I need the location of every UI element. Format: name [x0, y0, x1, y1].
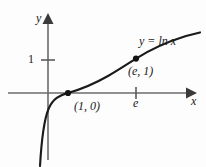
point-one-zero-dot [65, 90, 71, 96]
point-one-zero-label: (1, 0) [74, 100, 100, 112]
x-tick-e-label: e [133, 97, 138, 109]
y-tick-one-label: 1 [28, 53, 34, 65]
ln-curve [40, 32, 200, 166]
curve-equation-label: y = ln x [139, 35, 176, 47]
point-e-one-label: (e, 1) [128, 65, 153, 77]
y-axis-arrowhead [43, 13, 54, 24]
graph-canvas [0, 0, 206, 167]
y-axis-label: y [36, 12, 41, 24]
point-e-one-dot [133, 56, 139, 62]
ln-x-graph-figure: y x 1 e y = ln x (e, 1) (1, 0) [0, 0, 206, 167]
x-axis-label: x [191, 95, 196, 107]
